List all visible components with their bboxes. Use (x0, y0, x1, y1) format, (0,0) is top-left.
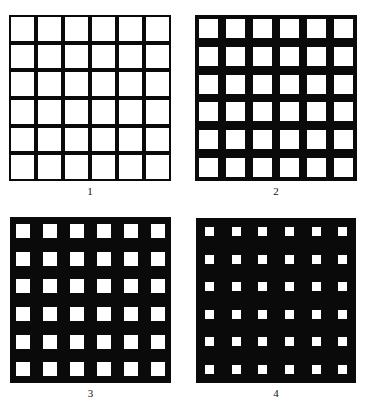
grid-cell (334, 158, 353, 177)
panel-label-3: 3 (10, 387, 171, 399)
grid-cell (334, 102, 353, 121)
grid-cell (70, 307, 84, 321)
grid-cell (92, 155, 116, 179)
grid-cell (119, 17, 143, 41)
grid-cell (253, 75, 272, 94)
grid-cell (43, 252, 57, 266)
grid-cell (285, 365, 294, 374)
panel-label-4: 4 (196, 387, 356, 399)
grid-cell (334, 19, 353, 38)
grid-cell (43, 335, 57, 349)
grid-cell (151, 362, 165, 376)
grid-cell (226, 102, 245, 121)
grid-cell (285, 255, 294, 264)
grid-cell (232, 310, 241, 319)
grid-cell (226, 47, 245, 66)
grid-cell (124, 279, 138, 293)
grid-cell (334, 75, 353, 94)
grid-cell (124, 362, 138, 376)
grid-cell (11, 155, 35, 179)
grid-cell (119, 155, 143, 179)
grid-cell (285, 282, 294, 291)
grid-cell (119, 72, 143, 96)
grid-panel-3 (10, 217, 171, 383)
grid-cell (124, 307, 138, 321)
grid-cell (232, 337, 241, 346)
grid-cell (43, 362, 57, 376)
grid-cell (65, 128, 89, 152)
grid-cell (16, 335, 30, 349)
grid-cell (205, 282, 214, 291)
grid-cell (280, 19, 299, 38)
grid-cell (226, 75, 245, 94)
grid-cell (253, 102, 272, 121)
grid-cell (199, 158, 218, 177)
grid-cell (205, 337, 214, 346)
grid-cell (334, 47, 353, 66)
grid-cell (312, 310, 321, 319)
grid-cell (280, 47, 299, 66)
grid-cell (97, 224, 111, 238)
grid-cell (146, 100, 170, 124)
grid-cell (124, 224, 138, 238)
grid-cell (199, 47, 218, 66)
grid-cell (205, 255, 214, 264)
grid-cell (92, 72, 116, 96)
grid-cell (146, 128, 170, 152)
grid-cell (232, 365, 241, 374)
grid-cell (258, 255, 267, 264)
grid-cell (205, 310, 214, 319)
grid-cell (258, 227, 267, 236)
grid-cell (43, 279, 57, 293)
grid-cell (280, 130, 299, 149)
grid-cell (151, 307, 165, 321)
grid-cell (38, 100, 62, 124)
grid-cell (199, 130, 218, 149)
grid-cell (334, 130, 353, 149)
grid-cell (97, 279, 111, 293)
grid-cell (312, 282, 321, 291)
grid-cell (312, 365, 321, 374)
grid-cell (97, 252, 111, 266)
grid-cell (307, 19, 326, 38)
grid-cell (338, 337, 347, 346)
grid-cell (285, 227, 294, 236)
grid-cell (16, 252, 30, 266)
grid-cell (146, 17, 170, 41)
grid-cell (151, 279, 165, 293)
grid-cell (97, 335, 111, 349)
grid-cell (199, 75, 218, 94)
grid-cell (38, 155, 62, 179)
grid-cell (151, 224, 165, 238)
grid-cell (258, 337, 267, 346)
grid-cell (338, 227, 347, 236)
grid-cell (38, 72, 62, 96)
grid-cell (253, 158, 272, 177)
grid-cell (92, 128, 116, 152)
grid-cell (43, 307, 57, 321)
grid-panel-4 (196, 218, 356, 383)
grid-cell (232, 282, 241, 291)
grid-cell (307, 75, 326, 94)
grid-cell (199, 102, 218, 121)
grid-cell (232, 227, 241, 236)
grid-cell (258, 282, 267, 291)
grid-cell (11, 100, 35, 124)
grid-cell (70, 335, 84, 349)
grid-cell (65, 72, 89, 96)
grid-cell (253, 19, 272, 38)
grid-cell (312, 227, 321, 236)
grid-cell (307, 158, 326, 177)
grid-cell (65, 100, 89, 124)
grid-cell (16, 224, 30, 238)
grid-cell (70, 224, 84, 238)
grid-cell (11, 17, 35, 41)
grid-cell (11, 45, 35, 69)
grid-cell (280, 158, 299, 177)
grid-cell (226, 19, 245, 38)
grid-cell (307, 102, 326, 121)
grid-cell (312, 337, 321, 346)
grid-cell (70, 279, 84, 293)
grid-cell (38, 17, 62, 41)
grid-cell (92, 17, 116, 41)
